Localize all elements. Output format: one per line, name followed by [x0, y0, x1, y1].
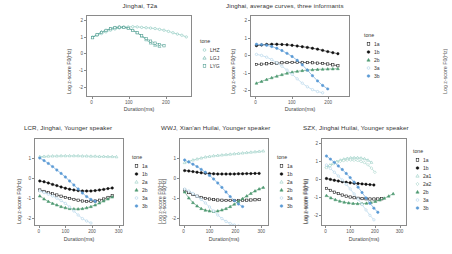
legend: tone LHZLGJLYG: [200, 38, 220, 70]
legend-label: 3b: [374, 73, 380, 79]
legend-label: LGJ: [210, 55, 219, 61]
legend-item-2b[interactable]: 2b: [364, 56, 380, 64]
legend-title: tone: [413, 148, 431, 154]
legend-item-3b[interactable]: 3b: [364, 72, 380, 80]
legend-marker-icon: [200, 54, 209, 62]
legend-item-3a[interactable]: 3a: [277, 194, 293, 202]
legend-item-1b[interactable]: 1b: [413, 164, 431, 172]
legend-item-1b[interactable]: 1b: [277, 170, 293, 178]
bottom-row: LCR, Jinghai, Younger speaker Log z-scor…: [0, 120, 447, 254]
legend-item-1b[interactable]: 1b: [132, 170, 148, 178]
legend-label: 1b: [423, 165, 429, 171]
legend-marker-icon: [364, 48, 373, 56]
plot-area: [86, 15, 192, 97]
plot-area: [34, 138, 124, 226]
legend-label: 3a: [287, 195, 293, 201]
panel-title: LCR, Jinghai, Younger speaker: [24, 124, 174, 131]
legend-marker-icon: [364, 64, 373, 72]
legend-item-1a[interactable]: 1a: [277, 162, 293, 170]
y-tick-mark: [319, 143, 321, 144]
legend-item-3b[interactable]: 3b: [132, 202, 148, 210]
legend-item-LYG[interactable]: LYG: [200, 62, 220, 70]
legend-label: 3a: [142, 195, 148, 201]
y-tick-mark: [32, 218, 34, 219]
legend-marker-icon: [132, 186, 141, 194]
y-tick-mark: [84, 53, 86, 54]
legend-marker-icon: [413, 172, 422, 180]
legend-item-1a[interactable]: 1a: [132, 162, 148, 170]
y-tick-mark: [248, 55, 250, 56]
legend-marker-icon: [413, 156, 422, 164]
series-1a: [255, 61, 339, 67]
legend-item-3a[interactable]: 3a: [132, 194, 148, 202]
y-tick-mark: [177, 218, 179, 219]
y-tick-label: 1: [238, 35, 247, 40]
legend-label: 2b: [374, 57, 380, 63]
legend-item-3a[interactable]: 3a: [364, 64, 380, 72]
legend-item-3b[interactable]: 3b: [413, 204, 431, 212]
legend-title: tone: [132, 154, 148, 160]
legend-label: 2a: [142, 179, 148, 185]
y-tick-label: 0: [22, 176, 31, 181]
legend-item-LHZ[interactable]: LHZ: [200, 46, 220, 54]
y-tick-label: 1: [22, 156, 31, 161]
legend-item-3a[interactable]: 3a: [413, 196, 431, 204]
legend-label: 3b: [287, 203, 293, 209]
chart-panel-jinghai-t2a: Jinghai, T2a Log z-score F0(Hz) Duration…: [60, 2, 220, 120]
x-axis-label: Duration(ms): [321, 236, 407, 242]
x-tick-label: 300: [396, 229, 404, 234]
series-1b: [183, 169, 260, 175]
legend-item-LGJ[interactable]: LGJ: [200, 54, 220, 62]
chart-panel-szx: SZX, Jinghai Huilai, Younger speaker Log…: [297, 124, 447, 254]
legend-label: 1a: [287, 163, 293, 169]
x-tick-label: 300: [115, 229, 123, 234]
series-3a: [255, 53, 324, 94]
y-tick-label: -2: [238, 88, 247, 93]
y-tick-mark: [84, 37, 86, 38]
legend-marker-icon: [413, 180, 422, 188]
series-2a: [183, 150, 264, 164]
panel-title: Jinghai, average curves, three informant…: [226, 2, 451, 9]
legend-label: LYG: [210, 63, 220, 69]
y-tick-mark: [319, 161, 321, 162]
legend-item-3b[interactable]: 3b: [277, 202, 293, 210]
legend-item-2b[interactable]: 2b: [132, 186, 148, 194]
series-2a: [38, 154, 118, 157]
y-tick-label: -1: [22, 196, 31, 201]
series-3b: [39, 157, 97, 203]
legend-item-2a[interactable]: 2a: [277, 178, 293, 186]
series-canvas: [180, 139, 269, 226]
legend-marker-icon: [364, 56, 373, 64]
legend-marker-icon: [277, 186, 286, 194]
legend-marker-icon: [277, 162, 286, 170]
legend-item-2a2[interactable]: 2a2: [413, 180, 431, 188]
legend-item-1b[interactable]: 1b: [364, 48, 380, 56]
y-tick-mark: [177, 158, 179, 159]
legend-label: 1a: [423, 157, 429, 163]
legend-label: 3b: [142, 203, 148, 209]
legend-marker-icon: [132, 170, 141, 178]
legend-item-2a1[interactable]: 2a1: [413, 172, 431, 180]
legend-item-2b[interactable]: 2b: [277, 186, 293, 194]
legend-item-2b[interactable]: 2b: [413, 188, 431, 196]
panel-title: Jinghai, T2a: [60, 2, 220, 9]
x-tick-label: 0: [182, 229, 185, 234]
x-tick-label: 0: [38, 229, 41, 234]
legend-item-1a[interactable]: 1a: [364, 40, 380, 48]
y-tick-mark: [248, 38, 250, 39]
x-tick-label: 100: [346, 229, 354, 234]
y-tick-label: -2: [309, 213, 318, 218]
x-tick-label: 0: [90, 100, 93, 105]
legend-item-2a[interactable]: 2a: [132, 178, 148, 186]
y-tick-mark: [248, 73, 250, 74]
y-tick-mark: [177, 178, 179, 179]
y-tick-mark: [32, 198, 34, 199]
legend: tone 1a1b2a12a22b3a3b: [413, 148, 431, 212]
y-tick-label: 0: [167, 176, 176, 181]
legend-marker-icon: [413, 204, 422, 212]
legend-item-1a[interactable]: 1a: [413, 156, 431, 164]
legend-marker-icon: [200, 46, 209, 54]
panel-title: WWJ, Xian'an Huilai, Younger speaker: [161, 124, 311, 131]
y-tick-label: -1: [167, 196, 176, 201]
series-1a: [184, 189, 261, 202]
